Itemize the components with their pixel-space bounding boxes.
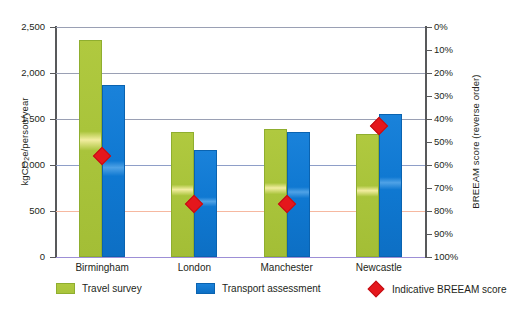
y-axis-left-tick-label: 2,000: [21, 67, 45, 78]
y-axis-right-tick-label: 30%: [434, 90, 453, 101]
plot-area: [56, 27, 425, 257]
y-axis-right-tick: [427, 96, 432, 97]
legend-item[interactable]: Indicative BREEAM score: [368, 283, 507, 296]
y-axis-left-tick-label: 1,500: [21, 113, 45, 124]
y-axis-left-tick-label: 2,500: [21, 21, 45, 32]
y-axis-right-tick: [427, 142, 432, 143]
gridline: [56, 257, 425, 258]
y-axis-right-tick: [427, 234, 432, 235]
y-axis-left-tick-label: 0: [40, 251, 45, 262]
y-axis-right-tick-label: 20%: [434, 67, 453, 78]
y-axis-left-tick: [50, 211, 55, 212]
y-axis-left-tick-label: 1,000: [21, 159, 45, 170]
gridline: [56, 27, 425, 28]
legend-label: Transport assessment: [222, 283, 321, 294]
y-axis-right-tick-label: 0%: [434, 21, 448, 32]
bar-transport-assessment: [379, 114, 402, 257]
y-axis-left-tick: [50, 119, 55, 120]
legend-label: Travel survey: [82, 283, 142, 294]
y-axis-right-tick: [427, 73, 432, 74]
y-axis-right-tick-label: 100%: [434, 251, 458, 262]
bar-transport-assessment: [287, 132, 310, 257]
bar-travel-survey: [264, 129, 287, 257]
y-axis-right-tick-label: 50%: [434, 136, 453, 147]
legend-label: Indicative BREEAM score: [392, 284, 507, 295]
y-axis-right-title: BREEAM score (reverse order): [470, 72, 481, 212]
y-axis-left-tick: [50, 257, 55, 258]
y-axis-right-tick: [427, 188, 432, 189]
y-axis-right-tick: [427, 257, 432, 258]
y-axis-right-tick-label: 40%: [434, 113, 453, 124]
y-axis-right-tick-label: 60%: [434, 159, 453, 170]
y-axis-left-tick: [50, 165, 55, 166]
bar-travel-survey: [171, 132, 194, 257]
green-swatch-icon: [56, 283, 75, 294]
y-axis-right-tick: [427, 211, 432, 212]
legend-item[interactable]: Travel survey: [56, 283, 142, 294]
y-axis-right-tick: [427, 119, 432, 120]
bar-travel-survey: [356, 134, 379, 257]
y-axis-right-tick-label: 90%: [434, 228, 453, 239]
y-axis-right-tick: [427, 27, 432, 28]
legend: Travel surveyTransport assessmentIndicat…: [56, 283, 486, 303]
diamond-icon: [368, 283, 385, 296]
x-axis-category-label: Newcastle: [319, 262, 439, 273]
y-axis-right-tick: [427, 50, 432, 51]
y-axis-right-tick: [427, 165, 432, 166]
y-axis-right-tick-label: 70%: [434, 182, 453, 193]
y-axis-left-tick: [50, 73, 55, 74]
legend-item[interactable]: Transport assessment: [196, 283, 321, 294]
y-axis-left-tick: [50, 27, 55, 28]
blue-swatch-icon: [196, 283, 215, 294]
y-axis-right-tick-label: 80%: [434, 205, 453, 216]
y-axis-right-tick-label: 10%: [434, 44, 453, 55]
gridline: [56, 73, 425, 74]
y-axis-left-tick-label: 500: [29, 205, 45, 216]
bar-transport-assessment: [102, 85, 125, 257]
y-axis-left-title: kgCO2e/person/year: [19, 72, 30, 212]
